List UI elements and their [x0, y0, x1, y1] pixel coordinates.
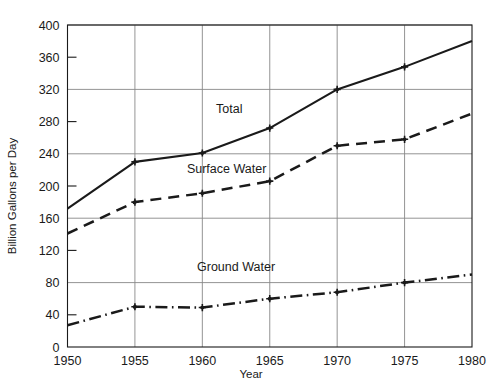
series-label-ground-water: Ground Water: [197, 260, 275, 274]
x-tick-label: 1980: [458, 354, 486, 368]
x-tick-label: 1970: [323, 354, 351, 368]
data-point-marker: [403, 281, 407, 285]
data-point-marker: [200, 151, 204, 155]
y-tick-label: 120: [39, 244, 60, 258]
data-point-marker: [335, 144, 339, 148]
x-tick-label: 1950: [54, 354, 82, 368]
series-label-surface-water: Surface Water: [187, 162, 266, 176]
y-tick-label: 240: [39, 147, 60, 161]
data-point-marker: [268, 179, 272, 183]
data-point-marker: [403, 65, 407, 69]
x-tick-label: 1975: [391, 354, 419, 368]
series-label-total: Total: [216, 102, 242, 116]
data-point-marker: [335, 290, 339, 294]
y-tick-label: 360: [39, 51, 60, 65]
y-tick-label: 320: [39, 83, 60, 97]
data-point-marker: [403, 137, 407, 141]
data-point-marker: [335, 88, 339, 92]
y-tick-label: 80: [46, 276, 60, 290]
data-point-marker: [200, 306, 204, 310]
y-axis-title: Billion Gallons per Day: [6, 138, 18, 255]
chart-container: 04080120160200240280320360400 1950195519…: [0, 0, 502, 392]
data-point-marker: [268, 126, 272, 130]
x-tick-label: 1960: [188, 354, 216, 368]
data-point-marker: [133, 160, 137, 164]
line-chart: 04080120160200240280320360400 1950195519…: [0, 0, 502, 392]
y-tick-label: 0: [53, 341, 60, 355]
data-point-marker: [268, 297, 272, 301]
x-axis-title: Year: [239, 368, 262, 380]
y-tick-label: 200: [39, 180, 60, 194]
y-tick-label: 160: [39, 212, 60, 226]
y-tick-label: 400: [39, 19, 60, 33]
data-point-marker: [200, 191, 204, 195]
data-point-marker: [133, 305, 137, 309]
x-tick-label: 1955: [121, 354, 149, 368]
x-tick-label: 1965: [256, 354, 284, 368]
y-tick-label: 40: [46, 308, 60, 322]
y-tick-label: 280: [39, 115, 60, 129]
data-point-marker: [133, 200, 137, 204]
